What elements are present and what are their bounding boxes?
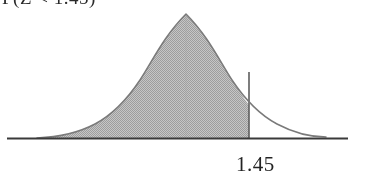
normal-curve-plot	[0, 0, 365, 182]
shaded-area	[37, 14, 257, 138]
normal-distribution-figure: P(Z < 1.45) 1.45	[0, 0, 365, 182]
x-axis-tick-label-1.45: 1.45	[236, 152, 275, 177]
